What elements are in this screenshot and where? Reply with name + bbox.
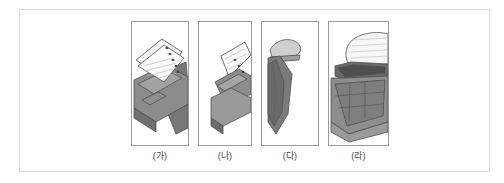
- panel-image-tilted-paper-and-keyboard: [198, 21, 252, 146]
- panel-image-keypad-grid-with-paper-roll: [328, 21, 389, 146]
- panel-image-notebook-paper-over-keyboard: [131, 21, 189, 146]
- panel-cell-d: (라): [328, 21, 389, 162]
- panel-strip: (가): [131, 21, 386, 166]
- panel-label-a: (가): [153, 150, 168, 162]
- panel-label-b: (나): [218, 150, 233, 162]
- panel-cell-b: (나): [198, 21, 252, 162]
- panel-label-d: (라): [351, 150, 366, 162]
- figure-frame: (가): [19, 9, 490, 172]
- panel-image-folded-dark-shape-close-up: [261, 21, 319, 146]
- panel-cell-c: (다): [261, 21, 319, 162]
- panel-cell-a: (가): [131, 21, 189, 162]
- panel-label-c: (다): [283, 150, 298, 162]
